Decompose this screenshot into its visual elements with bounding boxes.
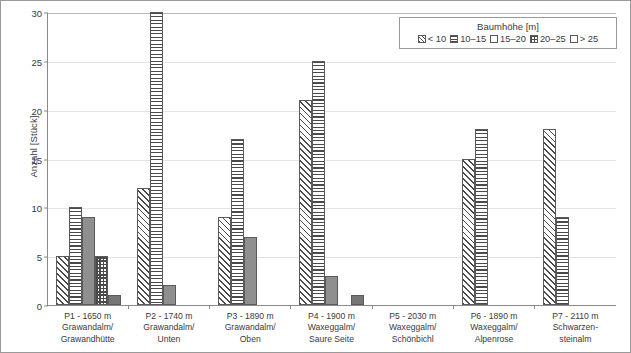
- bar-slot: [595, 13, 608, 305]
- x-axis-label-line: Waxeggalm/: [372, 322, 453, 333]
- bar[interactable]: [231, 139, 244, 305]
- x-axis-label-line: Unten: [128, 334, 209, 345]
- bar[interactable]: [299, 100, 312, 305]
- bar[interactable]: [95, 256, 108, 305]
- bar[interactable]: [137, 188, 150, 305]
- legend-swatch-icon: [490, 35, 498, 43]
- x-axis-label: P4 - 1900 mWaxeggalm/Saure Seite: [291, 311, 372, 345]
- bar-slot: [420, 13, 433, 305]
- legend-swatch-icon: [450, 35, 458, 43]
- x-axis-label-line: steinalm: [535, 334, 616, 345]
- bar-group: [48, 13, 129, 305]
- x-axis-label: P7 - 2110 mSchwarzen-steinalm: [535, 311, 616, 345]
- x-axis-labels: P1 - 1650 mGrawandalm/GrawandhütteP2 - 1…: [47, 311, 616, 345]
- y-tick-label: 0: [37, 301, 42, 312]
- bar[interactable]: [312, 61, 325, 305]
- x-axis-label-line: Grawandhütte: [47, 334, 128, 345]
- y-tick-label: 15: [31, 154, 42, 165]
- bar[interactable]: [462, 159, 475, 306]
- x-tick-mark: [290, 305, 291, 309]
- bar-slot: [189, 13, 202, 305]
- bar[interactable]: [163, 285, 176, 305]
- y-tick-label: 30: [31, 8, 42, 19]
- y-tick-mark: [44, 306, 48, 307]
- x-axis-label-line: Saure Seite: [291, 334, 372, 345]
- legend-item-label: 15–20: [500, 34, 526, 44]
- bar-slot: [95, 13, 108, 305]
- legend-item[interactable]: 15–20: [490, 34, 526, 44]
- legend-title: Baumhöhe [m]: [404, 21, 612, 32]
- bar[interactable]: [150, 12, 163, 305]
- bar-slot: [381, 13, 394, 305]
- bar-slot: [569, 13, 582, 305]
- y-tick-label: 20: [31, 105, 42, 116]
- y-tick-label: 5: [37, 252, 42, 263]
- bar-slot: [351, 13, 364, 305]
- legend-swatch-icon: [570, 35, 578, 43]
- bar[interactable]: [218, 217, 231, 305]
- x-axis-label-line: P4 - 1900 m: [291, 311, 372, 322]
- bar-slot: [108, 13, 121, 305]
- bar-slot: [231, 13, 244, 305]
- x-axis-label-line: Schönbichl: [372, 334, 453, 345]
- bar[interactable]: [108, 295, 121, 305]
- bar-slot: [514, 13, 527, 305]
- bar-slot: [407, 13, 420, 305]
- bar-group: [291, 13, 372, 305]
- bar[interactable]: [543, 129, 556, 305]
- x-tick-mark: [453, 305, 454, 309]
- legend-item[interactable]: 20–25: [530, 34, 566, 44]
- bar-slot: [543, 13, 556, 305]
- x-axis-label-line: Waxeggalm/: [453, 322, 534, 333]
- bar-slot: [69, 13, 82, 305]
- legend-swatch-icon: [418, 35, 426, 43]
- bar-slot: [325, 13, 338, 305]
- legend-items: < 1010–1515–2020–25> 25: [404, 34, 612, 44]
- bar-slot: [257, 13, 270, 305]
- bar-slot: [312, 13, 325, 305]
- bar-slot: [475, 13, 488, 305]
- bar[interactable]: [56, 256, 69, 305]
- bar[interactable]: [244, 237, 257, 305]
- bar-slot: [488, 13, 501, 305]
- chart-legend: Baumhöhe [m] < 1010–1515–2020–25> 25: [399, 17, 617, 49]
- x-axis-label-line: Grawandalm/: [210, 322, 291, 333]
- legend-item[interactable]: > 25: [570, 34, 598, 44]
- bar[interactable]: [82, 217, 95, 305]
- legend-item-label: > 25: [580, 34, 598, 44]
- x-axis-label-line: Schwarzen-: [535, 322, 616, 333]
- x-axis-label: P1 - 1650 mGrawandalm/Grawandhütte: [47, 311, 128, 345]
- bar[interactable]: [556, 217, 569, 305]
- bar-group: [373, 13, 454, 305]
- x-tick-mark: [128, 305, 129, 309]
- legend-item[interactable]: 10–15: [450, 34, 486, 44]
- y-tick-label: 25: [31, 56, 42, 67]
- bar-group: [129, 13, 210, 305]
- bar-slot: [270, 13, 283, 305]
- bar-slot: [299, 13, 312, 305]
- bar-slot: [556, 13, 569, 305]
- x-axis-label: P6 - 1890 mWaxeggalm/Alpenrose: [453, 311, 534, 345]
- x-axis-label-line: P1 - 1650 m: [47, 311, 128, 322]
- legend-item[interactable]: < 10: [418, 34, 446, 44]
- bar-slot: [150, 13, 163, 305]
- bar-slot: [433, 13, 446, 305]
- bar[interactable]: [475, 129, 488, 305]
- bar[interactable]: [351, 295, 364, 305]
- bar-slot: [82, 13, 95, 305]
- x-axis-label-line: Oben: [210, 334, 291, 345]
- bar-slot: [163, 13, 176, 305]
- legend-item-label: 10–15: [460, 34, 486, 44]
- x-tick-mark: [209, 305, 210, 309]
- chart-figure: Anzahl [Stück] 051015202530 P1 - 1650 mG…: [0, 0, 631, 353]
- legend-item-label: < 10: [428, 34, 446, 44]
- bar[interactable]: [69, 207, 82, 305]
- x-axis-label-line: P5 - 2030 m: [372, 311, 453, 322]
- bar[interactable]: [325, 276, 338, 305]
- bar-slot: [56, 13, 69, 305]
- bar-slot: [582, 13, 595, 305]
- bar-groups: [48, 13, 616, 305]
- x-axis-label-line: P7 - 2110 m: [535, 311, 616, 322]
- x-axis-label-line: P6 - 1890 m: [453, 311, 534, 322]
- x-axis-label-line: P2 - 1740 m: [128, 311, 209, 322]
